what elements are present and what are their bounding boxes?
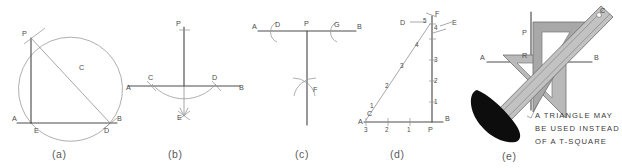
panel-b-label-E: E	[177, 113, 182, 122]
panel-b: P A C D B E (b)	[126, 19, 244, 160]
panel-d-vnum-3: 3	[434, 56, 438, 63]
panel-e: P R A B C A TRIANGLE MAY BE USED INSTEAD…	[471, 6, 620, 162]
panel-a-label-C: C	[79, 63, 84, 72]
panel-d-label-D: D	[400, 18, 405, 27]
panel-a-label-B: B	[117, 114, 122, 123]
panel-c-label-D: D	[275, 20, 280, 29]
panel-c-label-G: G	[334, 20, 340, 29]
panel-d-vnum-4: 4	[434, 24, 438, 31]
panel-b-label-P: P	[176, 19, 181, 28]
panel-c-label-P: P	[304, 19, 309, 28]
panel-d-dnum-1: 1	[370, 102, 374, 109]
panel-b-label-D: D	[212, 73, 217, 82]
panel-d-caption: (d)	[390, 148, 405, 160]
panel-a-lower-arc	[31, 123, 110, 141]
panel-c-label-A: A	[252, 22, 257, 31]
panel-d-label-E: E	[452, 18, 457, 27]
panel-e-caption: (e)	[502, 150, 517, 162]
panel-b-label-B: B	[239, 83, 244, 92]
figure-root: P C A E D B (a) P	[0, 0, 622, 168]
panel-e-label-R: R	[522, 51, 527, 60]
panel-e-note-line-1: A TRIANGLE MAY	[535, 111, 613, 120]
panel-e-label-C: C	[600, 6, 605, 15]
panel-d-vnum-5: 5	[423, 17, 427, 24]
panel-d-label-P: P	[428, 125, 433, 134]
panel-c: A D P G B F (c)	[252, 19, 362, 160]
panel-d: 1 2 3 4 5 1 2 3 1 2 3 4 F D E A C P B (d…	[358, 9, 457, 160]
panel-d-leader-E	[440, 22, 452, 26]
panel-d-hnum-2: 2	[385, 126, 389, 133]
panel-e-label-A: A	[480, 53, 485, 62]
panel-e-note-line-2: BE USED INSTEAD	[535, 124, 620, 133]
panel-a-label-E: E	[34, 126, 39, 135]
panel-c-arc-F-1	[293, 78, 315, 96]
technical-drawing-figure: P C A E D B (a) P	[0, 0, 622, 168]
panel-e-label-P: P	[522, 28, 527, 37]
panel-d-vnum-2: 2	[434, 77, 438, 84]
panel-d-hypotenuse-C5	[366, 24, 430, 120]
panel-b-label-A: A	[126, 83, 131, 92]
panel-b-caption: (b)	[168, 148, 183, 160]
panel-d-dnum-3: 3	[400, 62, 404, 69]
panel-d-dnum-4: 4	[415, 41, 419, 48]
panel-d-label-F: F	[435, 9, 440, 18]
panel-d-label-B: B	[445, 114, 450, 123]
panel-d-label-A: A	[358, 117, 363, 126]
panel-d-label-C: C	[367, 109, 372, 118]
panel-d-hnum-3: 3	[364, 126, 368, 133]
panel-b-label-C: C	[148, 73, 153, 82]
panel-a-caption: (a)	[52, 148, 67, 160]
panel-c-caption: (c)	[295, 148, 309, 160]
panel-d-dnum-2: 2	[385, 82, 389, 89]
panel-a-label-D: D	[104, 126, 109, 135]
panel-e-label-B: B	[594, 53, 599, 62]
panel-d-hnum-1: 1	[407, 126, 411, 133]
panel-a-hypotenuse-PD	[31, 38, 110, 123]
panel-d-vnum-1: 1	[434, 98, 438, 105]
panel-e-note-line-3: OF A T-SQUARE	[535, 137, 607, 146]
panel-c-label-B: B	[357, 22, 362, 31]
panel-c-label-F: F	[313, 85, 318, 94]
panel-a-label-P: P	[22, 29, 27, 38]
panel-a-label-A: A	[12, 114, 17, 123]
panel-a: P C A E D B (a)	[12, 28, 123, 160]
